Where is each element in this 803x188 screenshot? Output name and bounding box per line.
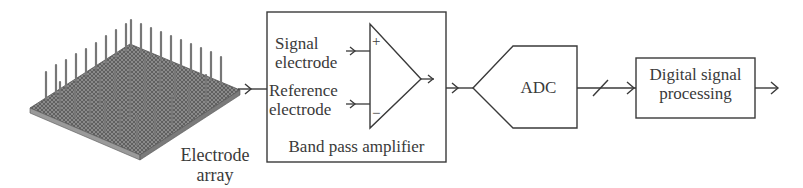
electrode-array-label: Electrode array [170,145,260,185]
dsp-label-line1: Digital signal [636,65,755,84]
reference-electrode-label: Reference electrode [269,81,338,119]
reference-label-line1: Reference [269,81,338,100]
dsp-label: Digital signal processing [636,65,755,103]
signal-label-line1: Signal [275,34,337,53]
minus-sign: − [372,104,380,123]
connector-amplifier-to-adc [446,83,473,93]
signal-label-line2: electrode [275,53,337,72]
electrode-array-label-line2: array [170,165,260,185]
connector-adc-to-dsp [577,80,636,96]
output-arrow [755,82,778,94]
dsp-label-line2: processing [636,84,755,103]
adc-label: ADC [500,78,577,97]
signal-electrode-label: Signal electrode [275,34,337,72]
reference-label-line2: electrode [269,100,338,119]
electrode-array-icon [30,20,240,160]
electrode-array-label-line1: Electrode [170,145,260,165]
amplifier-label: Band pass amplifier [267,137,446,156]
plus-sign: + [372,32,380,51]
connector-array-to-amplifier [238,84,267,94]
